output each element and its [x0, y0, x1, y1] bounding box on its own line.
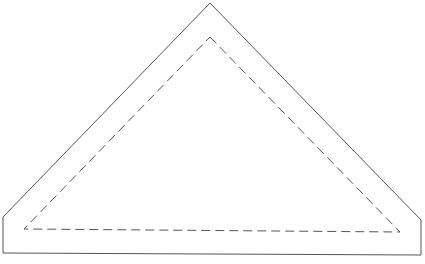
cut-line-outline — [3, 3, 421, 255]
seam-line-dashed — [24, 37, 400, 232]
pattern-canvas — [0, 0, 425, 264]
pattern-diagram — [0, 0, 425, 264]
